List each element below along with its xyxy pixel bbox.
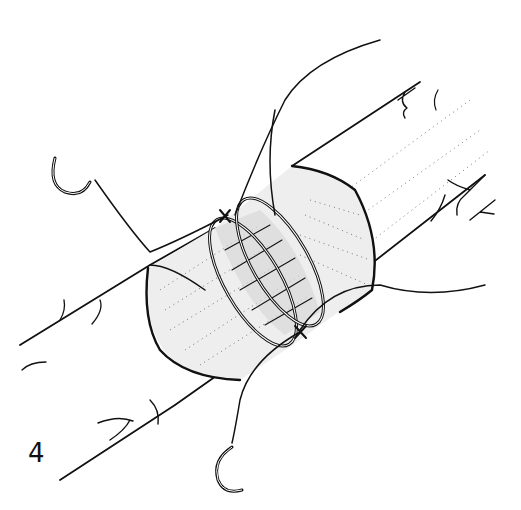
needle-top-left bbox=[53, 158, 90, 194]
anastomosis-illustration bbox=[0, 0, 521, 510]
panel-label: 4 bbox=[28, 440, 45, 466]
needle-bottom bbox=[217, 447, 242, 491]
